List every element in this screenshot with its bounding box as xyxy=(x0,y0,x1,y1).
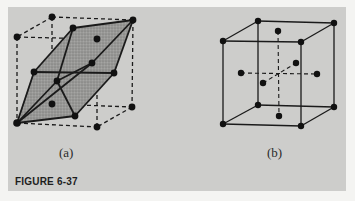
diagram-a xyxy=(13,14,136,131)
face-center-axes xyxy=(241,31,317,116)
diagram-b xyxy=(220,18,337,129)
figure-caption: FIGURE 6-37 xyxy=(15,176,78,187)
crystal-diagram xyxy=(0,0,355,201)
panel-label-b: (b) xyxy=(267,145,282,161)
panel-label-a: (a) xyxy=(59,145,73,161)
